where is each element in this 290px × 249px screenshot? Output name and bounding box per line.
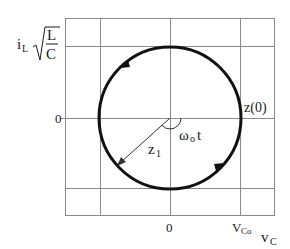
svg-text:ω: ω bbox=[179, 127, 189, 143]
z0-label: z(0) bbox=[244, 100, 267, 116]
svg-text:L: L bbox=[22, 43, 28, 54]
svg-text:i: i bbox=[17, 36, 21, 52]
svg-text:C: C bbox=[270, 236, 277, 247]
y-axis-label: i L L C bbox=[17, 27, 60, 62]
svg-text:C: C bbox=[46, 46, 56, 62]
svg-text:v: v bbox=[261, 229, 269, 245]
y-zero-label: 0 bbox=[55, 111, 62, 126]
radius-vector-z1 bbox=[120, 118, 170, 163]
x-zero-label: 0 bbox=[166, 220, 173, 235]
svg-text:1: 1 bbox=[156, 148, 161, 159]
state-plane-diagram: i L L C 0 0 V Co v C z(0) z 1 ω o t bbox=[0, 0, 290, 249]
z1-label: z 1 bbox=[148, 141, 161, 159]
vco-label: V Co bbox=[232, 220, 252, 236]
omega-t-label: ω o t bbox=[179, 127, 202, 144]
svg-text:Co: Co bbox=[241, 226, 252, 236]
svg-text:o: o bbox=[190, 133, 195, 144]
angle-arc bbox=[162, 125, 170, 129]
svg-text:z: z bbox=[148, 141, 155, 157]
svg-text:L: L bbox=[47, 27, 56, 43]
x-axis-label: v C bbox=[261, 229, 277, 247]
svg-text:t: t bbox=[197, 127, 202, 143]
